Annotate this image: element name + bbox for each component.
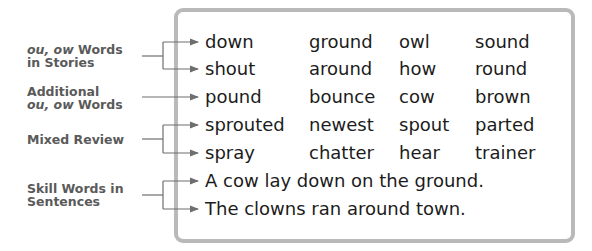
label-text: Mixed Review [27,132,124,147]
word: newest [309,112,374,138]
sentence: The clowns ran around town. [205,196,466,222]
label-italic: ou, ow [27,97,74,112]
word: bounce [309,84,375,110]
word: how [399,56,436,82]
word: sprouted [205,112,285,138]
label-mixed-review: Mixed Review [27,133,124,146]
word: sound [475,29,530,55]
word: trainer [475,140,535,166]
word: round [475,56,527,82]
label-skill-words-in-sentences: Skill Words in Sentences [27,182,124,208]
label-additional-ou-ow-words: Additional ou, ow Words [27,85,123,111]
word: pound [205,84,262,110]
word: around [309,56,372,82]
word: spray [205,140,255,166]
label-line2: Sentences [27,194,100,209]
word: parted [475,112,534,138]
word: hear [399,140,440,166]
word: down [205,29,254,55]
label-line2: in Stories [27,55,94,70]
word: shout [205,56,255,82]
word: ground [309,29,373,55]
word: owl [399,29,430,55]
word: spout [399,112,449,138]
sentence: A cow lay down on the ground. [205,168,484,194]
word: cow [399,84,435,110]
word: brown [475,84,531,110]
label-line2: Words [74,97,123,112]
word: chatter [309,140,374,166]
label-ou-ow-words-in-stories: ou, ow Words in Stories [27,43,123,69]
